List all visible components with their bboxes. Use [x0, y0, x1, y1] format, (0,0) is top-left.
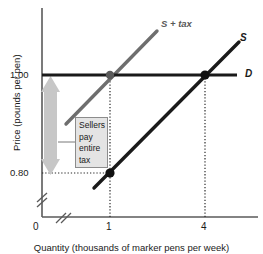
equilibrium-with-tax-marker [106, 71, 114, 79]
callout-line-3: entire [79, 143, 107, 155]
supply-price-net-of-tax-marker [105, 168, 114, 177]
supply-with-tax-curve-label: S + tax [161, 19, 192, 29]
x-axis-title: Quantity (thousands of marker pens per w… [0, 243, 263, 253]
equilibrium-no-tax-marker [200, 70, 209, 79]
callout-line-4: tax [79, 155, 107, 167]
y-tick-label-1-00: 1.00 [10, 70, 29, 80]
callout-line-1: Sellers [79, 120, 107, 132]
callout-line-2: pay [79, 132, 107, 144]
x-tick-label-4: 4 [201, 222, 207, 232]
demand-curve-label: D [245, 69, 252, 79]
origin-label: 0 [33, 222, 39, 232]
tax-incidence-arrow [41, 76, 60, 175]
supply-curve-label: S [240, 33, 247, 43]
y-tick-label-0-80: 0.80 [10, 168, 29, 178]
y-axis-title: Price (pounds per pen) [12, 38, 22, 168]
x-tick-label-1: 1 [106, 222, 112, 232]
x-axis-break-icon [56, 213, 71, 223]
chart-canvas [0, 0, 263, 254]
supply-demand-tax-figure: Price (pounds per pen) Quantity (thousan… [0, 0, 263, 254]
sellers-pay-entire-tax-callout: Sellers pay entire tax [75, 117, 108, 168]
supply-curve [94, 42, 239, 188]
